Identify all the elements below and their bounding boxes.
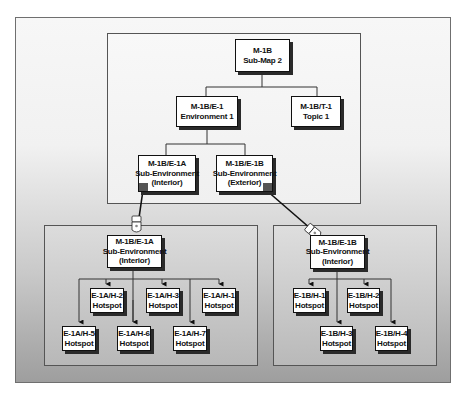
node-id: M-1B/E-1A <box>115 237 153 247</box>
topic-node[interactable]: M-1B/T-1 Topic 1 <box>291 96 341 127</box>
node-id: M-1B/E-1 <box>191 102 224 112</box>
node-label: Sub-Environment <box>103 247 167 257</box>
interior-header-node[interactable]: M-1B/E-1A Sub-Environment (Interior) <box>107 235 162 268</box>
sub-environment-exterior-node[interactable]: M-1B/E-1B Sub-Environment (Exterior) <box>216 155 273 192</box>
hotspot-id: E-1B/H-1 <box>294 291 326 301</box>
sub-environment-interior-node[interactable]: M-1B/E-1A Sub-Environment (Interior) <box>138 155 196 192</box>
node-id: M-1B/E-1B <box>225 159 263 169</box>
hotspot-node[interactable]: E-1A/H-6 Hotspot <box>117 326 151 351</box>
hotspot-label: Hotspot <box>377 339 406 349</box>
hotspot-label: Hotspot <box>349 301 378 311</box>
hotspot-node[interactable]: E-1B/H-4 Hotspot <box>375 326 408 351</box>
node-id: M-1B/T-1 <box>300 102 332 112</box>
hotspot-label: Hotspot <box>93 301 122 311</box>
hotspot-label: Hotspot <box>120 339 149 349</box>
hotspot-link-marker[interactable] <box>139 183 148 191</box>
node-label: Environment 1 <box>181 112 234 122</box>
hotspot-label: Hotspot <box>65 339 94 349</box>
hotspot-label: Hotspot <box>322 339 351 349</box>
hotspot-id: E-1B/H-2 <box>348 291 380 301</box>
node-sublabel: (Exterior) <box>228 178 262 188</box>
hotspot-node[interactable]: E-1B/H-1 Hotspot <box>293 288 326 313</box>
hotspot-id: E-1A/H-6 <box>118 329 150 339</box>
hotspot-label: Hotspot <box>205 301 234 311</box>
node-id: M-1B <box>253 46 272 56</box>
hotspot-id: E-1A/H-2 <box>91 291 123 301</box>
hotspot-label: Hotspot <box>295 301 324 311</box>
hotspot-id: E-1A/H-7 <box>174 329 206 339</box>
hotspot-id: E-1A/H-3 <box>147 291 179 301</box>
hotspot-label: Hotspot <box>176 339 205 349</box>
hotspot-label: Hotspot <box>149 301 178 311</box>
submap-root-node[interactable]: M-1B Sub-Map 2 <box>235 39 290 72</box>
node-label: Sub-Map 2 <box>243 56 282 66</box>
exterior-header-node[interactable]: M-1B/E-1B Sub-Environment (Interior) <box>310 235 365 269</box>
node-label: Sub-Environment <box>135 169 199 179</box>
node-label: Sub-Environment <box>213 169 277 179</box>
hotspot-id: E-1A/H-1 <box>203 291 235 301</box>
hotspot-id: E-1B/H-4 <box>376 329 408 339</box>
node-sublabel: (Interior) <box>322 257 353 267</box>
hotspot-node[interactable]: E-1A/H-3 Hotspot <box>146 288 180 313</box>
hotspot-node[interactable]: E-1B/H-3 Hotspot <box>320 326 353 351</box>
hotspot-node[interactable]: E-1A/H-1 Hotspot <box>202 288 236 313</box>
node-id: M-1B/E-1B <box>318 238 356 248</box>
node-label: Sub-Environment <box>306 247 370 257</box>
node-label: Topic 1 <box>303 112 329 122</box>
node-sublabel: (Interior) <box>119 256 150 266</box>
node-sublabel: (Interior) <box>152 178 183 188</box>
hotspot-id: E-1B/H-3 <box>321 329 353 339</box>
hotspot-id: E-1A/H-5 <box>63 329 95 339</box>
environment-node[interactable]: M-1B/E-1 Environment 1 <box>176 96 238 127</box>
hotspot-node[interactable]: E-1B/H-2 Hotspot <box>347 288 380 313</box>
node-id: M-1B/E-1A <box>148 159 186 169</box>
hotspot-link-marker[interactable] <box>263 183 272 191</box>
hotspot-node[interactable]: E-1A/H-7 Hotspot <box>173 326 207 351</box>
hand-pointer-icon <box>132 216 141 232</box>
hotspot-node[interactable]: E-1A/H-2 Hotspot <box>90 288 124 313</box>
hotspot-node[interactable]: E-1A/H-5 Hotspot <box>62 326 96 351</box>
